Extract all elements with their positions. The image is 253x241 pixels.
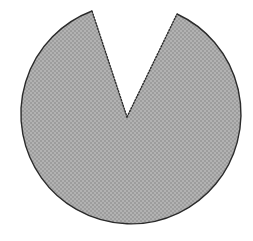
shape-figure — [0, 0, 253, 241]
figure-canvas — [0, 0, 253, 241]
shape-group — [21, 11, 241, 224]
